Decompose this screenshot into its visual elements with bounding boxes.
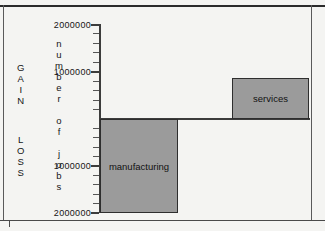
y-tick-minor <box>93 184 99 185</box>
y-axis-title: n u m b e r o f j o b s <box>55 38 63 192</box>
y-axis-title-letter: f <box>58 126 61 137</box>
y-tick-minor <box>93 81 99 82</box>
direction-label-loss-letter: S <box>18 156 24 167</box>
y-tick-minor <box>93 175 99 176</box>
y-axis-label-loss-2m: 2000000 <box>35 208 91 218</box>
direction-label-gain-letter: N <box>17 95 24 106</box>
figure-right-border <box>311 5 312 220</box>
direction-label-gain-letter: I <box>19 84 22 95</box>
y-axis-title-letter: u <box>56 49 61 60</box>
y-axis-label-gain-1m: 1000000 <box>35 67 91 77</box>
direction-label-gain: G A I N <box>17 62 24 106</box>
y-axis-label-gain-2m: 2000000 <box>35 20 91 30</box>
direction-label-gain-letter: G <box>17 62 24 73</box>
y-tick-major-gain-1m <box>91 71 99 73</box>
y-axis-title-letter: r <box>57 93 60 104</box>
y-tick-minor <box>93 203 99 204</box>
y-axis-title-letter: o <box>56 159 61 170</box>
y-tick-minor <box>93 52 99 53</box>
y-tick-minor <box>93 194 99 195</box>
figure-bottom-tick <box>9 220 10 227</box>
y-axis-title-spacer <box>58 137 61 148</box>
bar-label-services: services <box>253 93 288 104</box>
y-axis-label-loss-1m: 1000000 <box>35 161 91 171</box>
bar-services: services <box>232 78 309 119</box>
figure-bottom-border <box>0 220 325 221</box>
y-axis-title-spacer <box>58 104 61 115</box>
chart-figure: 2000000 1000000 1000000 2000000 manufact… <box>0 0 325 231</box>
y-tick-minor <box>93 33 99 34</box>
y-tick-minor <box>93 62 99 63</box>
y-tick-minor <box>93 137 99 138</box>
y-axis-title-letter: b <box>56 170 61 181</box>
y-axis-title-letter: e <box>56 82 61 93</box>
direction-label-loss-letter: S <box>18 167 24 178</box>
y-tick-major-loss-1m <box>91 165 99 167</box>
y-axis-title-letter: n <box>56 38 61 49</box>
direction-label-gain-letter: A <box>18 73 24 84</box>
bar-manufacturing: manufacturing <box>100 119 178 213</box>
y-tick-minor <box>93 109 99 110</box>
y-tick-minor <box>93 100 99 101</box>
y-tick-minor <box>93 156 99 157</box>
y-tick-minor <box>93 90 99 91</box>
direction-label-loss: L O S S <box>17 134 24 178</box>
y-axis-title-letter: s <box>57 181 62 192</box>
y-tick-minor <box>93 128 99 129</box>
direction-label-loss-letter: L <box>18 134 23 145</box>
y-tick-major-loss-2m <box>91 212 99 214</box>
y-tick-major-gain-2m <box>91 24 99 26</box>
y-axis-title-letter: b <box>56 71 61 82</box>
direction-label-loss-letter: O <box>17 145 24 156</box>
y-tick-minor <box>93 147 99 148</box>
bar-label-manufacturing: manufacturing <box>109 161 169 172</box>
y-axis-title-letter: j <box>58 148 60 159</box>
y-axis-title-letter: o <box>56 115 61 126</box>
y-axis-title-letter: m <box>55 60 63 71</box>
y-tick-minor <box>93 43 99 44</box>
